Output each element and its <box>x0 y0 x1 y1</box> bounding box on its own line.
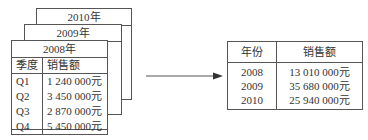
quarterly-table: 季度 销售额 Q1 1 240 000元 Q2 3 450 000元 Q3 2 … <box>11 57 108 135</box>
header-sales: 销售额 <box>277 42 363 63</box>
sales-cell: 35 680 000元 <box>277 79 363 93</box>
sales-cell: 25 940 000元 <box>277 93 363 110</box>
table-row: 2008 13 010 000元 <box>228 63 363 80</box>
arrow-right-icon <box>145 70 225 82</box>
header-quarter: 季度 <box>12 58 43 74</box>
table-header-row: 季度 销售额 <box>12 58 108 74</box>
table-row: Q2 3 450 000元 <box>12 89 108 104</box>
sheet-2008: 2008年 季度 销售额 Q1 1 240 000元 Q2 3 450 000元… <box>11 40 108 130</box>
year-cell: 2010 <box>228 93 277 110</box>
sales-cell: 1 240 000元 <box>43 74 108 90</box>
sales-cell: 3 450 000元 <box>43 89 108 104</box>
quarter-cell: Q4 <box>12 119 43 135</box>
summary-table: 年份 销售额 2008 13 010 000元 2009 35 680 000元… <box>227 41 363 110</box>
sheet-title: 2008年 <box>12 41 107 58</box>
table-row: Q3 2 870 000元 <box>12 104 108 119</box>
header-sales: 销售额 <box>43 58 108 74</box>
year-cell: 2009 <box>228 79 277 93</box>
year-cell: 2008 <box>228 63 277 80</box>
table-row: Q4 5 450 000元 <box>12 119 108 135</box>
table-header-row: 年份 销售额 <box>228 42 363 63</box>
header-year: 年份 <box>228 42 277 63</box>
quarter-cell: Q1 <box>12 74 43 90</box>
table-row: 2009 35 680 000元 <box>228 79 363 93</box>
sales-cell: 2 870 000元 <box>43 104 108 119</box>
quarter-cell: Q3 <box>12 104 43 119</box>
quarter-cell: Q2 <box>12 89 43 104</box>
table-row: 2010 25 940 000元 <box>228 93 363 110</box>
sales-cell: 13 010 000元 <box>277 63 363 80</box>
sales-cell: 5 450 000元 <box>43 119 108 135</box>
table-row: Q1 1 240 000元 <box>12 74 108 90</box>
